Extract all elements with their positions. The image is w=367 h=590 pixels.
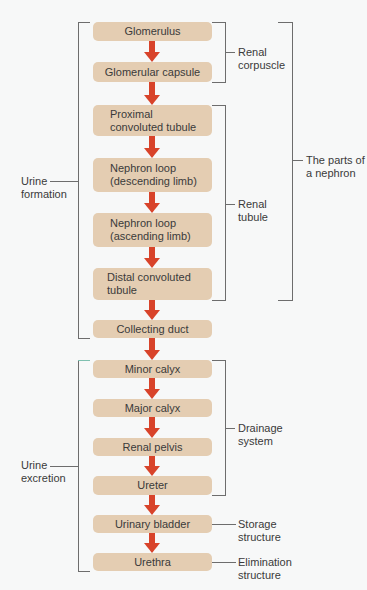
label-parts-of-nephron: The parts of a nephron	[306, 154, 365, 180]
box-glomerulus: Glomerulus	[93, 22, 212, 41]
box-renal-pelvis: Renal pelvis	[93, 438, 212, 456]
flow-arrow-icon	[144, 533, 160, 553]
box-label: Nephron loop (descending limb)	[110, 162, 197, 188]
label-renal-corpuscle: Renal corpuscle	[238, 46, 285, 72]
box-nephron-loop-descending: Nephron loop (descending limb)	[93, 158, 212, 192]
label-renal-tubule: Renal tubule	[238, 198, 268, 224]
flow-arrow-icon	[144, 41, 160, 62]
flow-arrow-icon	[144, 136, 160, 158]
box-label: Collecting duct	[116, 323, 188, 336]
box-major-calyx: Major calyx	[93, 399, 212, 417]
flow-arrow-icon	[144, 247, 160, 268]
label-elimination-structure: Elimination structure	[238, 556, 292, 582]
box-urinary-bladder: Urinary bladder	[93, 515, 212, 533]
box-distal-convoluted-tubule: Distal convoluted tubule	[93, 268, 212, 300]
box-urethra: Urethra	[93, 553, 212, 571]
flow-arrow-icon	[144, 456, 160, 476]
box-nephron-loop-ascending: Nephron loop (ascending limb)	[93, 213, 212, 247]
box-label: Major calyx	[125, 402, 181, 415]
flow-arrow-icon	[144, 82, 160, 105]
box-label: Urethra	[134, 556, 171, 569]
box-label: Nephron loop (ascending limb)	[110, 217, 191, 243]
flow-arrow-icon	[144, 338, 160, 360]
connector-elimination-structure	[212, 562, 236, 563]
label-drainage-system: Drainage system	[238, 422, 283, 448]
box-collecting-duct: Collecting duct	[93, 320, 212, 338]
flow-arrow-icon	[144, 417, 160, 438]
label-urine-excretion: Urine excretion	[21, 459, 66, 485]
box-label: Glomerulus	[124, 25, 180, 38]
flow-arrow-icon	[144, 378, 160, 399]
connector-storage-structure	[212, 524, 236, 525]
box-label: Urinary bladder	[115, 518, 190, 531]
box-label: Proximal convoluted tubule	[110, 108, 196, 134]
label-urine-formation: Urine formation	[21, 175, 67, 201]
box-label: Renal pelvis	[123, 441, 183, 454]
box-label: Minor calyx	[125, 363, 181, 376]
box-label: Ureter	[137, 479, 168, 492]
box-glomerular-capsule: Glomerular capsule	[93, 62, 212, 82]
label-storage-structure: Storage structure	[238, 518, 281, 544]
flow-arrow-icon	[144, 495, 160, 515]
box-label: Distal convoluted tubule	[107, 271, 191, 297]
box-label: Glomerular capsule	[105, 66, 200, 79]
box-proximal-convoluted-tubule: Proximal convoluted tubule	[93, 105, 212, 136]
box-minor-calyx: Minor calyx	[93, 360, 212, 378]
flow-arrow-icon	[144, 192, 160, 213]
flow-arrow-icon	[144, 300, 160, 320]
box-ureter: Ureter	[93, 476, 212, 495]
